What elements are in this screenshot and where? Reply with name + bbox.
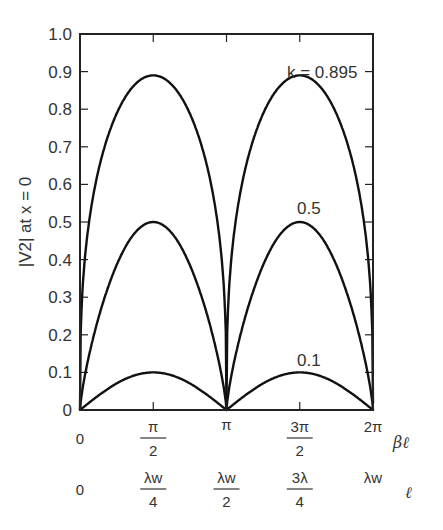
y-tick-label: 0.2 xyxy=(48,326,72,345)
y-tick-label: 0.5 xyxy=(48,213,72,232)
x-tick-den: 2 xyxy=(296,442,304,459)
x-tick-labels-beta-l: 0π2π3π22π xyxy=(76,416,383,459)
x-axis-label-l: ℓ xyxy=(405,483,412,502)
curves xyxy=(80,75,373,410)
x-tick-label: 0 xyxy=(76,481,84,498)
x-tick-num: 3λ xyxy=(292,469,308,486)
chart: 00.10.20.30.40.50.60.70.80.91.0 |V2| at … xyxy=(0,0,443,530)
x-tick-num: λw xyxy=(217,469,236,486)
y-tick-label: 0.1 xyxy=(48,363,72,382)
x-tick-den: 2 xyxy=(222,493,230,510)
y-tick-label: 1.0 xyxy=(48,25,72,44)
curve-k0895 xyxy=(80,75,373,410)
y-tick-label: 0.9 xyxy=(48,63,72,82)
x-tick-den: 4 xyxy=(149,493,157,510)
x-tick-num: π xyxy=(148,418,158,435)
y-axis-label: |V2| at x = 0 xyxy=(16,177,35,268)
series-label-k0895: k = 0.895 xyxy=(287,63,357,82)
y-tick-label: 0.4 xyxy=(48,251,72,270)
x-tick-num: λw xyxy=(144,469,163,486)
x-tick-label: λw xyxy=(364,469,383,486)
x-tick-labels-l: 0λw4λw23λ4λw xyxy=(76,469,382,510)
x-axis-label-beta-l: βℓ xyxy=(392,433,409,452)
series-label-k05: 0.5 xyxy=(297,199,321,218)
series-label-k01: 0.1 xyxy=(297,351,321,370)
x-tick-num: 3π xyxy=(290,418,309,435)
y-axis-ticks: 00.10.20.30.40.50.60.70.80.91.0 xyxy=(48,25,373,420)
y-tick-label: 0 xyxy=(63,401,72,420)
y-tick-label: 0.8 xyxy=(48,100,72,119)
y-tick-label: 0.7 xyxy=(48,138,72,157)
x-tick-label: 2π xyxy=(364,418,383,435)
x-tick-label: 0 xyxy=(76,430,84,447)
y-tick-label: 0.6 xyxy=(48,175,72,194)
x-tick-den: 2 xyxy=(149,442,157,459)
x-tick-den: 4 xyxy=(296,493,304,510)
y-tick-label: 0.3 xyxy=(48,288,72,307)
x-tick-label: π xyxy=(221,416,231,433)
